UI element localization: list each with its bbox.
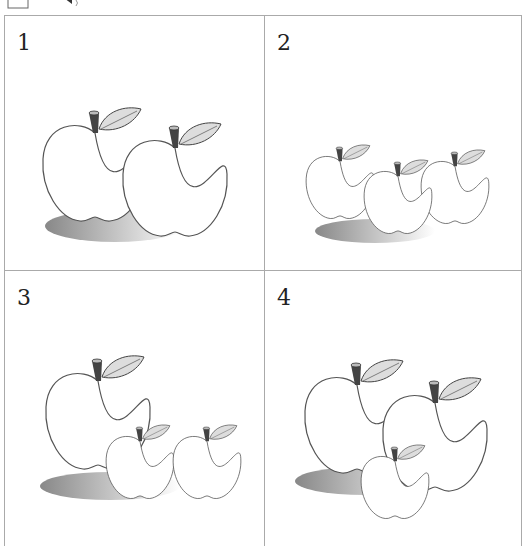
panel-1[interactable]: 1 — [5, 16, 263, 270]
apples-illustration — [5, 271, 263, 525]
panel-3[interactable]: 3 — [5, 271, 263, 525]
apple-grid: 1 2 3 4 — [4, 15, 522, 546]
apples-illustration — [265, 271, 522, 525]
box-icon[interactable] — [8, 0, 28, 8]
apples-illustration — [265, 16, 522, 270]
header-icons — [0, 0, 120, 12]
panel-4[interactable]: 4 — [265, 271, 522, 525]
apples-illustration — [5, 16, 263, 270]
speaker-icon[interactable] — [40, 0, 78, 6]
panel-2[interactable]: 2 — [265, 16, 522, 270]
